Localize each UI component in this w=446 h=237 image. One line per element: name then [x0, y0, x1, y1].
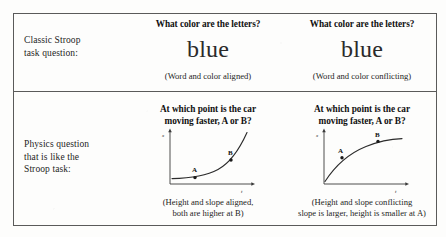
graph-conflicting: x t A B	[302, 126, 424, 196]
physics-caption-conflicting: (Height and slope conflicting slope is l…	[286, 197, 438, 219]
physics-caption-conflicting-line2: slope is larger, height is smaller at A)	[286, 208, 438, 219]
y-axis-label: x	[161, 133, 165, 138]
physics-caption-conflicting-line1: (Height and slope conflicting	[286, 197, 438, 208]
point-b-marker	[229, 158, 232, 161]
physics-caption-aligned-line2: both are higher at B)	[132, 208, 284, 219]
stroop-caption-conflicting: (Word and color conflicting)	[286, 71, 438, 82]
stroop-row-label: Classic Stroop task question:	[24, 34, 132, 59]
stroop-row: Classic Stroop task question: What color…	[14, 14, 436, 91]
point-b-label: B	[375, 131, 380, 139]
stroop-question-aligned: What color are the letters?	[132, 19, 284, 31]
graph-conflicting-svg: x t A B	[302, 126, 424, 196]
physics-row-label-line2: that is like the	[24, 151, 132, 164]
physics-row-label-line1: Physics question	[24, 138, 132, 151]
physics-cell-aligned: At which point is the car moving faster,…	[132, 92, 284, 225]
x-axis-label: t	[241, 189, 243, 194]
stroop-caption-aligned: (Word and color aligned)	[132, 71, 284, 82]
stroop-stimulus-aligned: blue	[132, 35, 284, 63]
physics-question-aligned: At which point is the car moving faster,…	[132, 104, 284, 127]
stroop-row-label-line2: task question:	[24, 47, 132, 60]
point-a-label: A	[192, 166, 197, 174]
point-b-label: B	[228, 149, 233, 157]
y-axis-label: x	[315, 133, 319, 138]
stroop-cell-conflicting: What color are the letters? blue (Word a…	[286, 14, 438, 91]
physics-question-conflicting-line1: At which point is the car	[286, 104, 438, 116]
y-axis-arrow-icon	[322, 129, 326, 133]
y-axis-arrow-icon	[168, 129, 172, 133]
stroop-cell-aligned: What color are the letters? blue (Word a…	[132, 14, 284, 91]
x-axis-arrow-icon	[251, 182, 255, 186]
point-b-marker	[376, 140, 379, 143]
stroop-question-conflicting: What color are the letters?	[286, 19, 438, 31]
physics-row-label-line3: Stroop task:	[24, 163, 132, 176]
x-axis-arrow-icon	[405, 182, 409, 186]
physics-caption-aligned: (Height and slope aligned, both are high…	[132, 197, 284, 219]
physics-row-label: Physics question that is like the Stroop…	[24, 138, 132, 176]
graph-aligned: x t A B	[148, 126, 270, 196]
physics-question-aligned-line1: At which point is the car	[132, 104, 284, 116]
x-axis-label: t	[395, 189, 397, 194]
physics-cell-conflicting: At which point is the car moving faster,…	[286, 92, 438, 225]
physics-row: Physics question that is like the Stroop…	[14, 91, 436, 225]
point-a-marker	[340, 156, 343, 159]
stroop-stimulus-conflicting: blue	[286, 35, 438, 63]
physics-caption-aligned-line1: (Height and slope aligned,	[132, 197, 284, 208]
figure-frame: Classic Stroop task question: What color…	[13, 13, 437, 226]
position-curve	[172, 133, 247, 179]
position-curve	[325, 139, 402, 182]
graph-aligned-svg: x t A B	[148, 126, 270, 196]
point-a-marker	[193, 176, 196, 179]
point-a-label: A	[338, 147, 343, 155]
figure-page: Classic Stroop task question: What color…	[0, 0, 446, 237]
physics-question-conflicting: At which point is the car moving faster,…	[286, 104, 438, 127]
stroop-row-label-line1: Classic Stroop	[24, 34, 132, 47]
